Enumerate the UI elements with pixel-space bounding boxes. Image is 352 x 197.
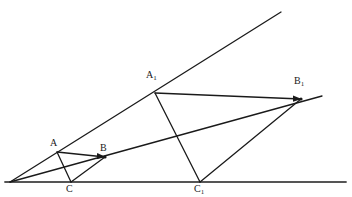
- point-label-text: B: [100, 142, 107, 153]
- point-label-subscript: 1: [301, 80, 305, 88]
- geometry-figure: ABCA1B1C1: [0, 0, 352, 197]
- segment-A1-C1: [155, 93, 200, 182]
- segment-A-B: [57, 152, 105, 157]
- dot-B: [103, 155, 106, 158]
- point-label-subscript: 1: [201, 188, 205, 196]
- segments-group: [5, 12, 346, 182]
- point-label-subscript: 1: [153, 74, 157, 82]
- point-label-text: C: [194, 183, 201, 194]
- point-label-b: B: [100, 143, 107, 153]
- point-label-a: A: [50, 138, 57, 148]
- point-label-a1: A1: [146, 70, 157, 80]
- dot-B1: [299, 97, 302, 100]
- segment-C1-B1: [200, 99, 301, 182]
- point-label-text: B: [294, 75, 301, 86]
- vertex-dots-group: [103, 97, 302, 158]
- point-label-text: A: [50, 137, 57, 148]
- segment-A-C: [57, 152, 71, 182]
- figure-canvas: [0, 0, 352, 197]
- point-label-text: C: [66, 183, 73, 194]
- point-label-c1: C1: [194, 184, 204, 194]
- point-label-b1: B1: [294, 76, 304, 86]
- segment-A1-B1: [155, 93, 301, 99]
- point-label-c: C: [66, 184, 73, 194]
